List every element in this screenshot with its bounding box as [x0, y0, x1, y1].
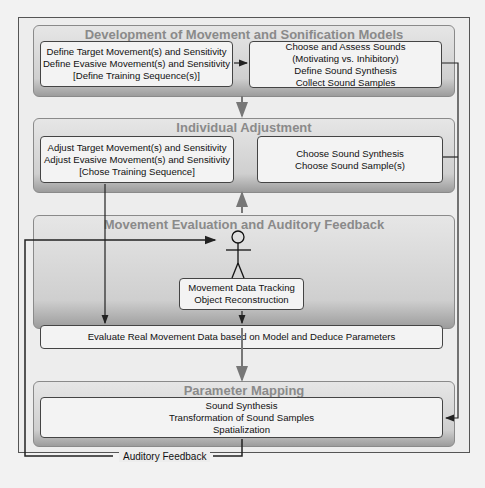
connectors [0, 0, 485, 488]
stick-figure-icon [226, 231, 251, 278]
